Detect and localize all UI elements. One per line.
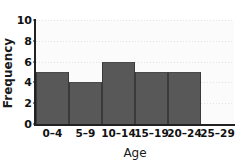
y-tick-label: 4: [24, 76, 32, 89]
x-tick-label: 15–19: [134, 127, 168, 139]
x-tick-label: 25–29: [200, 127, 234, 139]
histogram-figure: Frequency 0246810 0–45–910–1415–1920–242…: [0, 0, 245, 167]
bar: [102, 62, 135, 124]
x-tick-label: 20–24: [167, 127, 201, 139]
y-tick-label: 10: [17, 14, 32, 27]
bar-series: [36, 20, 234, 124]
y-axis-title: Frequency: [0, 20, 16, 126]
x-tick-label: 10–14: [101, 127, 135, 139]
plot-area: [36, 20, 234, 124]
y-axis-title-text: Frequency: [1, 38, 15, 108]
y-tick-label: 6: [24, 55, 32, 68]
y-axis-tick-labels: 0246810: [16, 0, 36, 167]
bar: [36, 72, 69, 124]
x-tick-label: 0–4: [43, 127, 63, 139]
x-axis-tick-labels: 0–45–910–1415–1920–2425–29: [36, 127, 234, 143]
bar: [69, 82, 102, 124]
x-tick-label: 5–9: [76, 127, 96, 139]
y-tick-label: 8: [24, 34, 32, 47]
y-tick-label: 0: [24, 118, 32, 131]
x-axis-line: [34, 124, 235, 126]
y-tick-label: 2: [24, 97, 32, 110]
x-axis-title: Age: [36, 146, 234, 160]
bar: [135, 72, 168, 124]
bar: [168, 72, 201, 124]
